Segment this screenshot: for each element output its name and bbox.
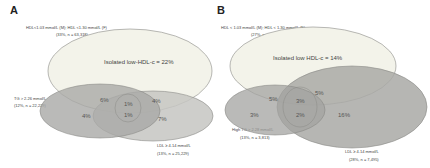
region-isolated-low-hdl-b: Isolated low HDL-c = 14% bbox=[273, 55, 343, 61]
region-isolated-low-hdl-a: Isolated low-HDL-c = 22% bbox=[104, 59, 174, 65]
region-tg-only-a: 4% bbox=[82, 113, 91, 119]
region-ldl-only-a: 7% bbox=[158, 116, 167, 122]
tg-ellipse-b bbox=[225, 85, 325, 135]
region-hdl-ldl-b: 5% bbox=[315, 90, 324, 96]
region-hdl-tg-b: 5% bbox=[269, 96, 278, 102]
region-all-three-a: 1% bbox=[124, 101, 133, 107]
venn-panel-b: B HDL < 1.03 mmol/L (M); HDL < 1.30 mmol… bbox=[215, 0, 430, 168]
region-hdl-tg-a: 6% bbox=[100, 97, 109, 103]
region-ldl-only-b: 16% bbox=[338, 112, 351, 118]
region-tg-ldl-b: 2% bbox=[296, 112, 305, 118]
venn-panel-a: A HDL<1.03 mmol/L (M); HDL <1.30 mmol/L … bbox=[0, 0, 215, 168]
venn-diagram-a: Isolated low-HDL-c = 22% 6% 4% 1% 1% 4% … bbox=[0, 0, 215, 168]
region-all-three-b: 3% bbox=[296, 98, 305, 104]
tg-ellipse-a bbox=[40, 84, 160, 138]
region-hdl-ldl-a: 4% bbox=[152, 98, 161, 104]
venn-diagram-b: Isolated low HDL-c = 14% 5% 5% 3% 2% 3% … bbox=[215, 0, 430, 168]
region-tg-ldl-a: 1% bbox=[124, 112, 133, 118]
region-tg-only-b: 3% bbox=[250, 112, 259, 118]
